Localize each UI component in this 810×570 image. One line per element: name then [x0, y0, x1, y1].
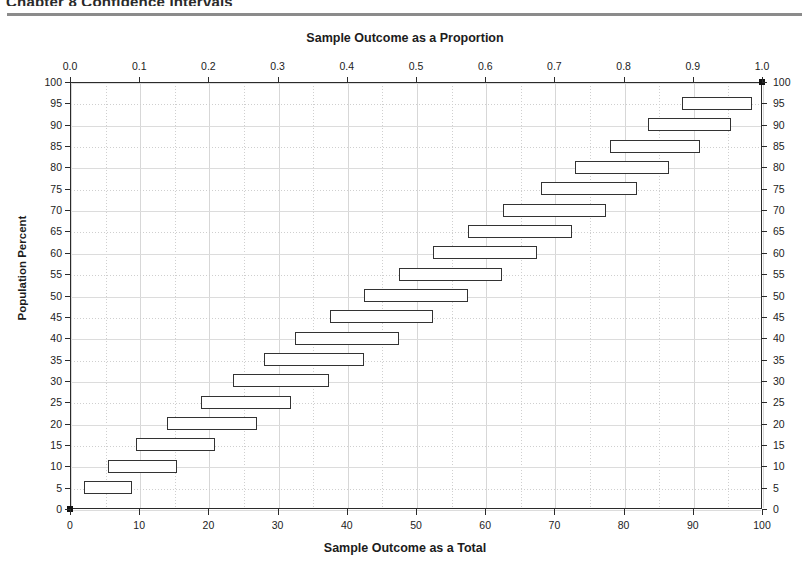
tick-x-bottom-4 — [347, 509, 348, 515]
tick-label-y-left-17: 85 — [22, 140, 62, 152]
tick-x-top-3 — [278, 77, 279, 82]
tick-y-right-3 — [762, 445, 767, 446]
tick-y-right-16 — [762, 167, 767, 168]
ci-bar-35[interactable] — [264, 353, 364, 366]
ci-bar-65[interactable] — [468, 225, 572, 238]
tick-label-x-top-9: 0.9 — [685, 60, 700, 72]
tick-label-x-top-1: 0.1 — [132, 60, 147, 72]
ci-bar-45[interactable] — [330, 310, 434, 323]
tick-y-right-7 — [762, 360, 767, 361]
tick-y-left-5 — [65, 402, 70, 403]
tick-y-right-18 — [762, 125, 767, 126]
tick-y-left-11 — [65, 274, 70, 275]
tick-label-y-right-4: 20 — [773, 418, 810, 430]
tick-label-y-right-3: 15 — [773, 439, 810, 451]
ci-bar-80[interactable] — [575, 161, 668, 174]
tick-y-right-9 — [762, 317, 767, 318]
gridline-horizontal-35 — [71, 361, 761, 362]
tick-label-y-left-0: 0 — [22, 503, 62, 515]
tick-label-y-right-13: 65 — [773, 225, 810, 237]
tick-label-y-left-8: 40 — [22, 332, 62, 344]
tick-label-x-bottom-7: 70 — [549, 519, 561, 531]
tick-y-left-14 — [65, 210, 70, 211]
tick-label-x-bottom-4: 40 — [341, 519, 353, 531]
page-header-text: Chapter 8 Confidence Intervals — [6, 0, 233, 6]
tick-x-bottom-9 — [693, 509, 694, 515]
tick-y-left-17 — [65, 146, 70, 147]
tick-label-y-right-11: 55 — [773, 268, 810, 280]
tick-label-x-bottom-1: 10 — [133, 519, 145, 531]
tick-label-y-right-5: 25 — [773, 396, 810, 408]
ci-bar-85[interactable] — [610, 140, 700, 153]
tick-label-y-left-11: 55 — [22, 268, 62, 280]
tick-y-right-0 — [762, 509, 767, 510]
ci-bar-20[interactable] — [167, 417, 257, 430]
gridline-horizontal-30 — [71, 382, 761, 383]
tick-y-right-2 — [762, 466, 767, 467]
ci-bar-95[interactable] — [682, 97, 751, 110]
ci-bar-40[interactable] — [295, 332, 399, 345]
tick-label-x-bottom-8: 80 — [618, 519, 630, 531]
ci-bar-15[interactable] — [136, 438, 216, 451]
ci-bar-30[interactable] — [233, 374, 330, 387]
tick-y-right-5 — [762, 402, 767, 403]
tick-label-y-left-1: 5 — [22, 482, 62, 494]
tick-x-bottom-3 — [278, 509, 279, 515]
tick-y-left-8 — [65, 338, 70, 339]
ci-bar-25[interactable] — [201, 396, 291, 409]
tick-label-x-top-8: 0.8 — [616, 60, 631, 72]
tick-y-right-13 — [762, 231, 767, 232]
tick-y-left-9 — [65, 317, 70, 318]
gridline-horizontal-70 — [71, 211, 761, 212]
tick-label-y-left-14: 70 — [22, 204, 62, 216]
ci-bar-75[interactable] — [541, 182, 638, 195]
tick-label-y-left-12: 60 — [22, 247, 62, 259]
ci-bar-5[interactable] — [84, 481, 132, 494]
tick-label-y-left-15: 75 — [22, 183, 62, 195]
tick-y-right-1 — [762, 488, 767, 489]
gridline-horizontal-25 — [71, 403, 761, 404]
tick-y-right-20 — [762, 82, 767, 83]
ci-bar-55[interactable] — [399, 268, 503, 281]
tick-label-y-right-2: 10 — [773, 460, 810, 472]
ci-bar-50[interactable] — [364, 289, 468, 302]
tick-x-top-5 — [416, 77, 417, 82]
tick-label-y-left-4: 20 — [22, 418, 62, 430]
tick-y-left-15 — [65, 189, 70, 190]
tick-x-top-9 — [693, 77, 694, 82]
tick-label-y-right-0: 0 — [773, 503, 810, 515]
tick-label-y-right-15: 75 — [773, 183, 810, 195]
tick-y-right-6 — [762, 381, 767, 382]
tick-y-right-8 — [762, 338, 767, 339]
tick-label-y-right-16: 80 — [773, 161, 810, 173]
gridline-horizontal-60 — [71, 254, 761, 255]
tick-label-y-left-5: 25 — [22, 396, 62, 408]
tick-y-left-18 — [65, 125, 70, 126]
tick-y-left-20 — [65, 82, 70, 83]
ci-bar-60[interactable] — [433, 246, 537, 259]
tick-label-y-left-3: 15 — [22, 439, 62, 451]
tick-label-y-right-19: 95 — [773, 97, 810, 109]
ci-bar-70[interactable] — [503, 204, 607, 217]
gridline-horizontal-5 — [71, 489, 761, 490]
tick-y-left-4 — [65, 424, 70, 425]
tick-label-x-top-10: 1.0 — [755, 60, 770, 72]
tick-label-x-bottom-3: 30 — [272, 519, 284, 531]
tick-y-right-11 — [762, 274, 767, 275]
tick-label-y-left-20: 100 — [22, 76, 62, 88]
top-axis-title: Sample Outcome as a Proportion — [0, 31, 810, 45]
ci-bar-90[interactable] — [648, 118, 731, 131]
tick-y-left-3 — [65, 445, 70, 446]
tick-x-bottom-8 — [624, 509, 625, 515]
tick-y-left-7 — [65, 360, 70, 361]
tick-label-y-left-19: 95 — [22, 97, 62, 109]
ci-bar-10[interactable] — [108, 460, 177, 473]
tick-y-left-0 — [65, 509, 70, 510]
tick-label-y-left-2: 10 — [22, 460, 62, 472]
tick-label-y-right-20: 100 — [773, 76, 810, 88]
tick-y-left-12 — [65, 253, 70, 254]
tick-x-bottom-2 — [208, 509, 209, 515]
tick-y-left-16 — [65, 167, 70, 168]
tick-x-bottom-6 — [485, 509, 486, 515]
bottom-axis-title: Sample Outcome as a Total — [0, 541, 810, 555]
